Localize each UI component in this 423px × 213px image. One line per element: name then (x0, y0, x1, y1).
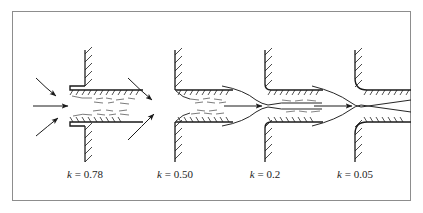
pipe-bottom-wall-well-rounded (355, 117, 411, 134)
equals-sharp: = (165, 168, 171, 180)
panel-slightly-rounded-drawing (222, 48, 323, 162)
k-symbol-sharp: k (157, 168, 162, 180)
pipe-top-wall-sharp (175, 90, 233, 95)
upper-wall-slightly-rounded (265, 48, 272, 87)
caption-panel-well-rounded: k = 0.05 (295, 168, 415, 180)
k-value-slightly-rounded: 0.2 (266, 168, 280, 180)
upper-wall-well-rounded (355, 48, 362, 87)
k-symbol-reentrant: k (67, 168, 72, 180)
equals-reentrant: = (75, 168, 81, 180)
separation-zone-lower-sharp (191, 110, 224, 114)
upper-wall-sharp (175, 48, 182, 90)
k-symbol-slightly-rounded: k (250, 168, 255, 180)
vena-contracta-sharp (176, 91, 190, 121)
lower-wall-sharp (175, 120, 182, 162)
panel-reentrant-drawing (33, 47, 143, 162)
separation-zone-upper-sharp (190, 98, 226, 103)
k-value-well-rounded: 0.05 (354, 168, 373, 180)
lower-wall-slightly-rounded (265, 120, 272, 162)
pipe-bottom-wall-slightly-rounded (265, 117, 323, 128)
separation-zone-lower-reentrant (73, 110, 129, 116)
equals-slightly-rounded: = (257, 168, 263, 180)
panel-sharp-drawing (128, 48, 233, 162)
k-value-sharp: 0.50 (174, 168, 193, 180)
lower-wall-well-rounded (355, 120, 362, 162)
upper-wall-reentrant (85, 47, 92, 86)
pipe-top-wall-reentrant (70, 86, 143, 95)
k-value-reentrant: 0.78 (84, 168, 103, 180)
pipe-bottom-wall-sharp (175, 117, 233, 122)
equals-well-rounded: = (345, 168, 351, 180)
separation-zone-upper-reentrant (72, 96, 135, 104)
figure-container: k = 0.78 k = 0.50 k = 0.2 k = 0.05 (0, 0, 423, 213)
streamlines-reentrant (36, 78, 58, 136)
k-symbol-well-rounded: k (337, 168, 342, 180)
pipe-bottom-wall-reentrant (70, 117, 143, 126)
lower-wall-reentrant (85, 123, 92, 162)
diagram-canvas (0, 0, 423, 213)
streamlines-sharp (128, 78, 154, 140)
pipe-top-wall-slightly-rounded (265, 84, 323, 95)
panel-well-rounded-drawing (312, 48, 411, 162)
pipe-top-wall-well-rounded (355, 78, 411, 95)
